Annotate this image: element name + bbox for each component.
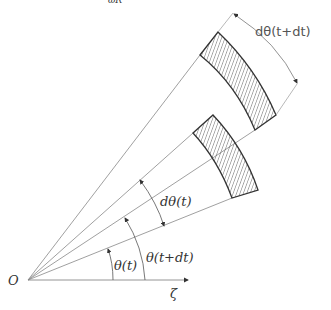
theta-t-dt-label: θ(t+dt) xyxy=(146,250,194,265)
zeta-axis-label: ζ xyxy=(170,286,178,301)
top-fragment-label: ωR xyxy=(108,0,122,5)
ray-theta-t-dt-upper xyxy=(28,55,200,280)
theta-t-arc xyxy=(108,249,113,280)
rotating-sector-diagram: ωR ζ O dθ(t+dt) dθ(t) θ(t) θ(t+dt) xyxy=(0,0,331,310)
dtheta-t-label: dθ(t) xyxy=(160,194,192,209)
sector-at-t-dt xyxy=(200,32,276,130)
theta-t-label: θ(t) xyxy=(114,258,137,273)
origin-label: O xyxy=(8,273,19,288)
sector-at-t xyxy=(193,115,258,198)
dtheta-t-dt-label: dθ(t+dt) xyxy=(255,24,311,39)
